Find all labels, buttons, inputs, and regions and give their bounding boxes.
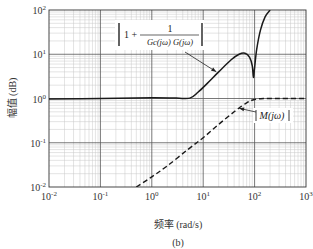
annotation-lead: 1 + [124,29,138,40]
y-tick-label: 101 [33,48,47,60]
x-tick-label: 10-1 [92,190,108,202]
y-tick-labels: 10-210-1100101102 [30,4,46,193]
x-tick-label: 103 [299,190,313,202]
annotation-numerator: 1 [168,23,173,34]
x-tick-label: 10-2 [41,190,57,202]
x-axis-label: 频率 (rad/s) [154,218,203,231]
y-tick-label: 100 [33,93,47,105]
bode-magnitude-chart: 10-210-1100101102103 10-210-1100101102 1… [0,0,313,249]
x-tick-label: 100 [145,190,159,202]
x-tick-label: 102 [248,190,262,202]
arrow-head [211,67,216,71]
annotation-m-text: M(jω) [259,110,285,122]
annotation-denominator: Gc(jω) G(jω) [147,37,193,47]
annotation-m: M(jω) [239,107,293,123]
y-axis-label: 幅值 (dB) [6,78,19,119]
x-tick-label: 101 [196,190,210,202]
x-tick-labels: 10-210-1100101102103 [41,190,313,202]
y-tick-label: 102 [33,4,47,16]
figure-caption: (b) [172,237,184,249]
y-tick-label: 10-1 [30,137,46,149]
